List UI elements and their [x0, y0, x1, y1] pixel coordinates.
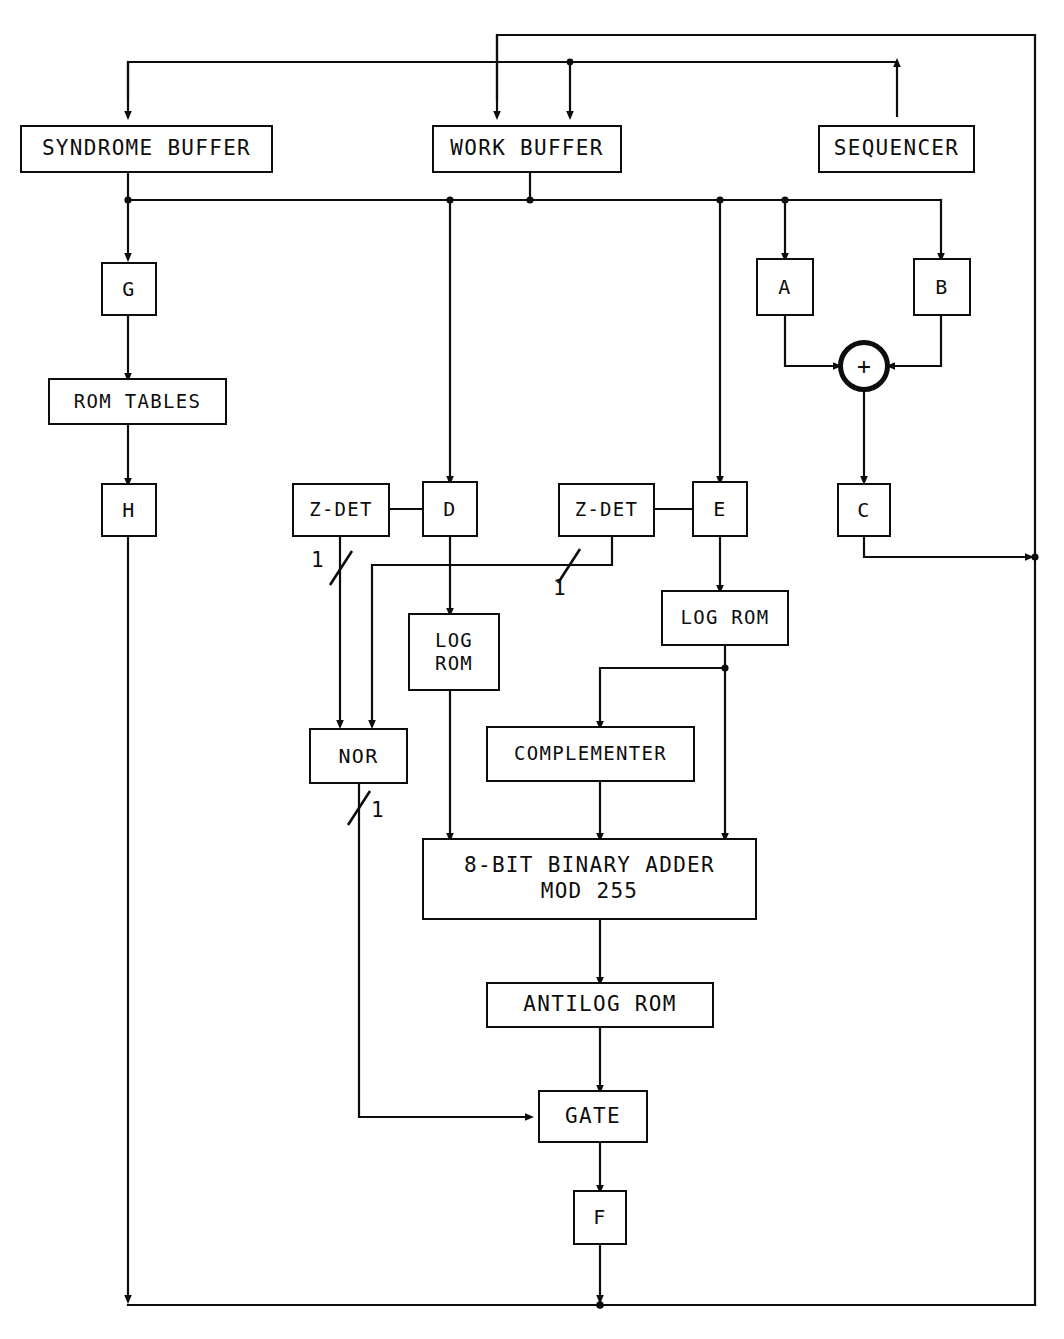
block-complementer[interactable]: COMPLEMENTER — [486, 726, 695, 782]
block-nor-gate[interactable]: NOR — [309, 728, 408, 784]
block-sequencer[interactable]: SEQUENCER — [818, 125, 975, 173]
block-sequencer-label: SEQUENCER — [834, 136, 960, 162]
block-syndrome-buffer[interactable]: SYNDROME BUFFER — [20, 125, 273, 173]
block-gate-label: GATE — [565, 1104, 621, 1130]
bus-width-label-nor-out: 1 — [371, 798, 384, 822]
register-c[interactable]: C — [837, 483, 891, 537]
block-gate[interactable]: GATE — [538, 1090, 648, 1143]
block-log-rom-left[interactable]: LOG ROM — [408, 613, 500, 691]
register-e[interactable]: E — [692, 481, 748, 537]
block-binary-adder[interactable]: 8-BIT BINARY ADDER MOD 255 — [422, 838, 757, 920]
block-antilog-rom-label: ANTILOG ROM — [523, 992, 676, 1018]
register-a[interactable]: A — [756, 258, 814, 316]
block-log-rom-left-label: LOG ROM — [435, 629, 473, 675]
block-z-det-right[interactable]: Z-DET — [558, 483, 655, 537]
wire-layer — [0, 0, 1064, 1339]
bus-width-label-zdet-right: 1 — [553, 576, 566, 600]
block-rom-tables-label: ROM TABLES — [74, 390, 201, 413]
register-b-label: B — [935, 275, 948, 299]
block-z-det-left[interactable]: Z-DET — [292, 483, 390, 537]
block-work-buffer[interactable]: WORK BUFFER — [432, 125, 622, 173]
block-binary-adder-label: 8-BIT BINARY ADDER MOD 255 — [464, 853, 715, 904]
register-a-label: A — [778, 275, 791, 299]
summing-junction[interactable]: + — [838, 340, 890, 392]
register-d-label: D — [443, 497, 456, 521]
block-rom-tables[interactable]: ROM TABLES — [48, 378, 227, 425]
block-log-rom-right-label: LOG ROM — [680, 606, 769, 629]
block-z-det-right-label: Z-DET — [575, 498, 639, 521]
block-work-buffer-label: WORK BUFFER — [450, 136, 603, 162]
register-b[interactable]: B — [913, 258, 971, 316]
register-f-label: F — [593, 1205, 606, 1229]
block-z-det-left-label: Z-DET — [309, 498, 373, 521]
block-nor-gate-label: NOR — [338, 744, 378, 768]
block-antilog-rom[interactable]: ANTILOG ROM — [486, 982, 714, 1028]
register-h[interactable]: H — [101, 483, 157, 537]
register-g-label: G — [122, 277, 135, 301]
block-diagram: SYNDROME BUFFER WORK BUFFER SEQUENCER G … — [0, 0, 1064, 1339]
register-g[interactable]: G — [101, 262, 157, 316]
block-complementer-label: COMPLEMENTER — [514, 742, 667, 765]
register-d[interactable]: D — [422, 481, 478, 537]
register-c-label: C — [857, 498, 870, 522]
summing-junction-label: + — [857, 353, 871, 379]
bus-width-label-zdet-left: 1 — [311, 548, 324, 572]
block-log-rom-right[interactable]: LOG ROM — [661, 590, 789, 646]
block-syndrome-buffer-label: SYNDROME BUFFER — [42, 136, 251, 162]
register-e-label: E — [713, 497, 726, 521]
register-f[interactable]: F — [573, 1190, 627, 1245]
register-h-label: H — [122, 498, 135, 522]
